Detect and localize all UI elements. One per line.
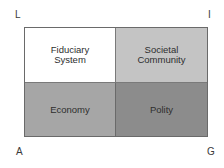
quadrant-fiduciary-system: Fiduciary System	[25, 28, 116, 83]
corner-label-i: I	[208, 10, 211, 20]
corner-label-g: G	[207, 147, 215, 157]
quadrant-polity: Polity	[116, 83, 207, 136]
quadrant-label: Polity	[150, 105, 173, 115]
quadrant-societal-community: Societal Community	[116, 28, 207, 83]
corner-label-l: L	[15, 10, 21, 20]
quadrant-label: Economy	[50, 105, 90, 115]
agil-quadrant-grid: Fiduciary System Societal Community Econ…	[24, 27, 208, 137]
corner-label-a: A	[16, 147, 23, 157]
quadrant-label-line2: System	[51, 55, 90, 65]
quadrant-economy: Economy	[25, 83, 116, 136]
quadrant-label-line2: Community	[137, 55, 185, 65]
